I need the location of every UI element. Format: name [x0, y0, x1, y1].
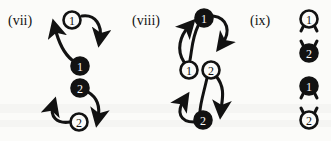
- arrow-viii-3: [180, 26, 189, 62]
- arrow-viii-2: [216, 76, 223, 110]
- node-label: 2: [76, 116, 82, 130]
- panel-ix-graphics: 1 2 1 2: [240, 0, 331, 141]
- node-label: 2: [77, 82, 83, 96]
- node-label: 2: [200, 114, 206, 128]
- panel-vii: (vii) 1 1: [0, 0, 118, 141]
- link-viii-top: [190, 26, 198, 60]
- node-ix-1-solid: 1: [301, 78, 318, 99]
- arrow-vii-3: [88, 92, 99, 118]
- figure-root: (vii) 1 1: [0, 0, 331, 141]
- node-ix-1-open: 1: [301, 11, 318, 32]
- node-viii-2-solid-bottom: 2: [195, 112, 212, 129]
- node-ix-2-solid: 2: [301, 41, 318, 62]
- node-label: 1: [77, 60, 83, 74]
- node-vii-1-solid: 1: [72, 58, 89, 75]
- panel-ix: (ix) 1 2 1: [240, 0, 331, 141]
- panel-vii-graphics: 1 1 2 2: [0, 0, 118, 141]
- node-ix-2-open: 2: [301, 108, 318, 129]
- panel-viii: (viii) 1: [118, 0, 240, 141]
- node-vii-2-solid: 2: [72, 80, 89, 97]
- node-label: 1: [306, 80, 312, 94]
- node-label: 1: [306, 13, 312, 27]
- node-vii-1-open-top: 1: [64, 12, 81, 29]
- node-label: 1: [201, 12, 207, 26]
- link-viii-bottom: [200, 78, 207, 112]
- node-label: 1: [186, 64, 192, 78]
- arrow-vii-4: [52, 106, 70, 122]
- arrow-vii-1: [82, 16, 100, 38]
- panel-viii-graphics: 1 1 2 2: [118, 0, 240, 141]
- node-viii-2-open-middle: 2: [203, 62, 220, 79]
- node-label: 2: [208, 64, 214, 78]
- node-viii-1-open-middle: 1: [181, 62, 198, 79]
- arrow-viii-4: [180, 100, 194, 122]
- node-label: 1: [69, 14, 75, 28]
- arrow-viii-1: [213, 16, 227, 44]
- node-label: 2: [306, 114, 312, 128]
- node-vii-2-open-bottom: 2: [71, 114, 88, 131]
- node-viii-1-solid-top: 1: [196, 10, 213, 27]
- arrow-vii-2: [55, 28, 72, 60]
- node-label: 2: [306, 47, 312, 61]
